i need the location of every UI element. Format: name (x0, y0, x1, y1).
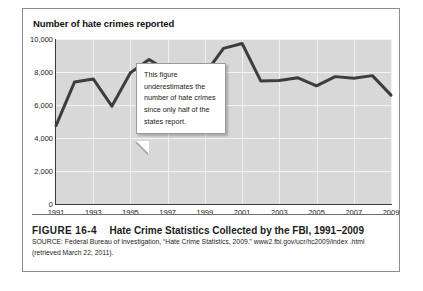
x-axis-tick-label: 2007 (345, 208, 362, 217)
callout-annotation: This figure underestimates the number of… (136, 63, 226, 134)
x-axis-tick-label: 2001 (234, 208, 251, 217)
y-axis-tick-label: 8,000 (23, 68, 53, 77)
y-axis-tick-label: 4,000 (23, 134, 53, 143)
x-axis-line (55, 204, 392, 205)
figure-container: Number of hate crimes reported 02,0004,0… (22, 8, 400, 272)
x-axis-tick-label: 2005 (308, 208, 325, 217)
x-axis-tick-label: 1991 (48, 208, 65, 217)
callout-tail-icon (136, 141, 149, 154)
source-note: SOURCE: Federal Bureau of Investigation,… (32, 237, 392, 258)
callout-text: This figure underestimates the number of… (144, 70, 216, 126)
x-axis-tick-label: 2003 (271, 208, 288, 217)
chart-block: Number of hate crimes reported 02,0004,0… (23, 9, 401, 213)
chart-title: Number of hate crimes reported (33, 18, 174, 29)
caption-divider (32, 214, 392, 215)
y-axis-tick-label: 10,000 (23, 35, 53, 44)
x-axis-tick-label: 1993 (85, 208, 102, 217)
y-axis-tick-label: 6,000 (23, 101, 53, 110)
figure-number: FIGURE 16-4 (32, 225, 97, 236)
x-axis-tick-label: 1997 (159, 208, 176, 217)
gridline-vertical (391, 39, 392, 204)
x-axis-tick-label: 2009 (383, 208, 400, 217)
x-axis-tick-label: 1999 (197, 208, 214, 217)
caption: FIGURE 16-4 Hate Crime Statistics Collec… (32, 220, 394, 238)
x-axis-tick-label: 1995 (122, 208, 139, 217)
y-axis-tick-label: 2,000 (23, 167, 53, 176)
figure-caption-text: Hate Crime Statistics Collected by the F… (109, 225, 364, 236)
y-axis-tick-labels: 02,0004,0006,0008,00010,000 (23, 39, 53, 204)
